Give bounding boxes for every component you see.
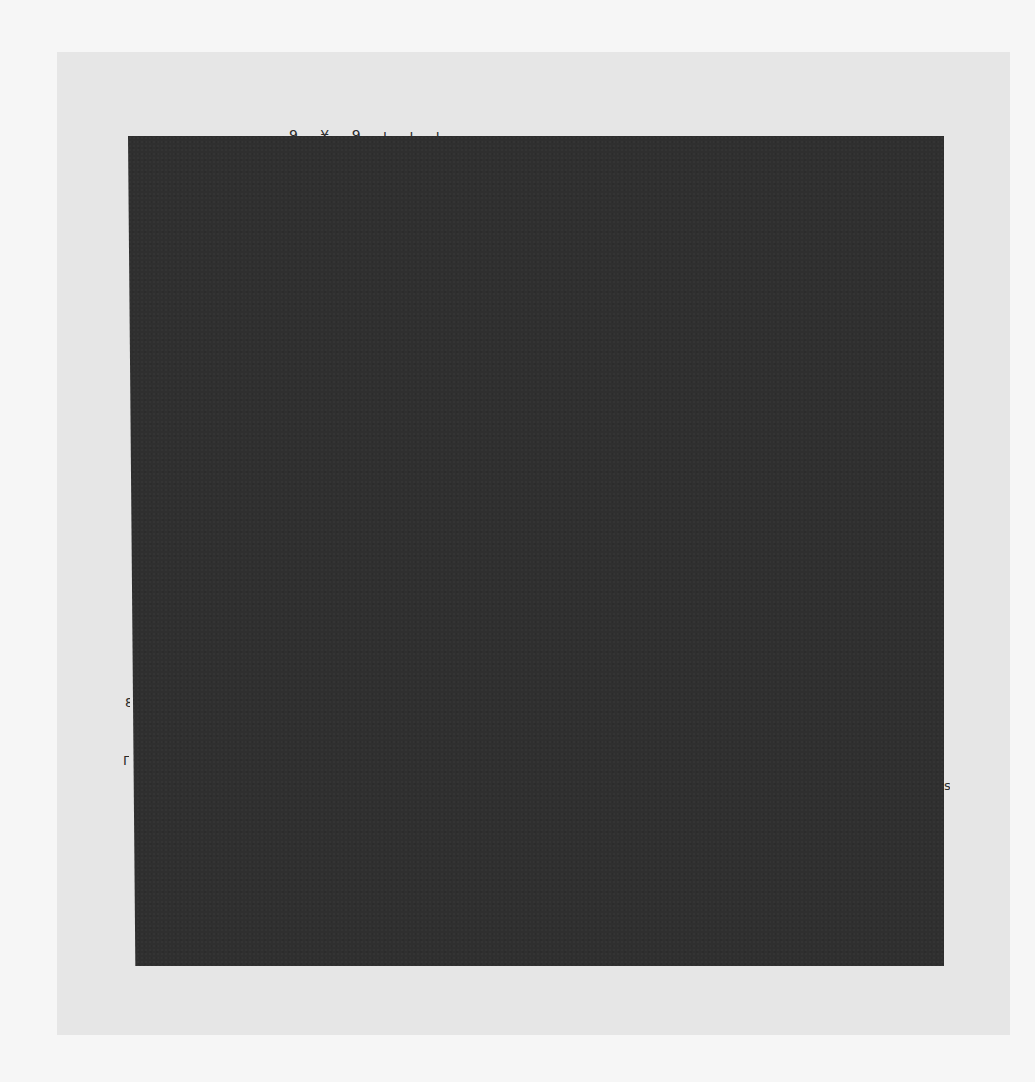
text-fragment-left-1: 8 bbox=[125, 696, 130, 709]
scanned-page: 9 ¥ 9 ı ı ı 8 Γ s bbox=[57, 52, 1010, 1035]
text-fragment-left-2: Γ bbox=[123, 754, 129, 767]
redaction-block bbox=[128, 136, 944, 966]
text-fragment-top: 9 ¥ 9 ı ı ı bbox=[289, 128, 449, 136]
text-fragment-right: s bbox=[944, 779, 950, 792]
